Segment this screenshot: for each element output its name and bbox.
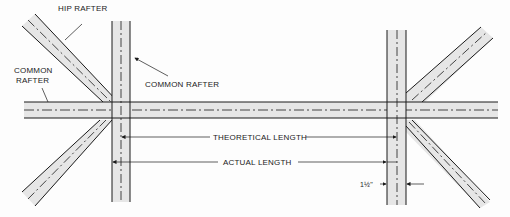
- thickness-label: 1½": [360, 180, 373, 189]
- common-rafter-left-label-line2: RAFTER: [16, 76, 49, 85]
- common-rafter-right-label: COMMON RAFTER: [145, 80, 219, 89]
- hip-rafter-upper-left: [22, 14, 118, 102]
- hip-rafter-upper-right: [406, 27, 493, 102]
- common-rafter-left-leader: [42, 88, 48, 102]
- hip-rafter-lower-left: [22, 120, 112, 206]
- hip-rafter-leader: [65, 24, 82, 40]
- common-rafter-leader: [135, 58, 168, 76]
- common-rafter-left: [112, 21, 130, 202]
- common-rafter-left-label-line1: COMMON: [14, 66, 53, 75]
- hip-rafter-label: HIP RAFTER: [58, 4, 107, 13]
- hip-rafter-lower-right: [406, 120, 490, 208]
- theoretical-length-label: THEORETICAL LENGTH: [213, 133, 307, 142]
- actual-length-label: ACTUAL LENGTH: [223, 158, 292, 167]
- diagram-graphic: [0, 0, 510, 217]
- ridge-board: [24, 102, 498, 118]
- rafter-diagram: HIP RAFTER COMMON RAFTER COMMON RAFTER T…: [0, 0, 510, 217]
